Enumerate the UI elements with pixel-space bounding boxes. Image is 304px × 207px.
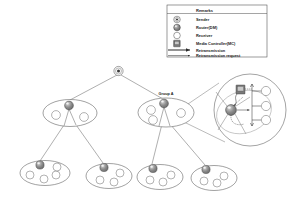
router-body [160, 99, 169, 108]
magnified-router-node[interactable] [226, 105, 237, 116]
receiver-node[interactable] [80, 113, 89, 122]
router-node[interactable] [100, 163, 108, 171]
media-controller-icon-screen [175, 41, 179, 44]
legend-label-receiver: Receiver [196, 33, 213, 38]
cluster-boundary [137, 165, 183, 190]
sender-node[interactable] [114, 66, 123, 75]
receiver-node[interactable] [26, 171, 34, 179]
legend-label-media-controller: Media Controller(MC) [196, 41, 236, 46]
router-highlight [101, 165, 103, 167]
cluster-group-a[interactable]: Group A [138, 92, 194, 127]
legend-label-sender: Sender [196, 17, 210, 22]
receiver-node[interactable] [52, 171, 60, 179]
cluster-group-left[interactable] [43, 100, 97, 127]
cluster-group-b1[interactable] [20, 161, 70, 186]
edge-sender-to-group-a [121, 75, 163, 99]
router-body [65, 101, 74, 110]
magnified-receiver-node[interactable] [261, 86, 270, 95]
receiver-node[interactable] [53, 163, 61, 171]
router-body [36, 161, 44, 169]
router-body [100, 163, 108, 171]
legend-label-retransmission-request: Retransmission request [196, 53, 241, 58]
router-node[interactable] [160, 99, 169, 108]
cluster-group-b4[interactable] [191, 165, 237, 190]
router-icon [174, 24, 181, 31]
receiver-node[interactable] [159, 178, 167, 186]
cluster-boundary [191, 166, 237, 191]
edge-sender-to-group-left [70, 75, 117, 100]
legend: Remarks Sender Router(DM) Receiver [167, 5, 267, 58]
receiver-node[interactable] [110, 178, 118, 186]
edge-group-left-to-b1 [40, 122, 66, 161]
cluster-group-b2[interactable] [86, 163, 132, 188]
legend-header-label: Remarks [196, 8, 214, 13]
receiver-icon [174, 32, 181, 39]
receiver-node[interactable] [52, 111, 61, 120]
sender-core-dot [117, 70, 120, 73]
figure-root: Group A [0, 0, 304, 207]
router-highlight [37, 162, 39, 164]
edge-group-a-to-b4 [170, 124, 205, 165]
router-highlight [228, 106, 231, 108]
receiver-node[interactable] [40, 175, 48, 183]
cluster-group-b3[interactable] [137, 164, 183, 189]
router-highlight [150, 166, 152, 168]
router-node[interactable] [149, 164, 157, 172]
router-highlight [161, 101, 164, 103]
router-node[interactable] [36, 161, 44, 169]
receiver-node[interactable] [147, 106, 156, 115]
receiver-node[interactable] [116, 169, 124, 177]
router-highlight [203, 167, 205, 169]
media-controller-node[interactable] [236, 85, 245, 94]
media-controller-screen [237, 86, 243, 91]
group-a-label: Group A [158, 92, 173, 96]
router-node[interactable] [202, 165, 210, 173]
router-icon-highlight [175, 25, 177, 27]
router-highlight [66, 103, 69, 105]
magnified-receiver-node[interactable] [261, 101, 270, 110]
edge-group-a-to-b3 [152, 124, 162, 164]
legend-label-retransmission: Retransmission [196, 48, 226, 53]
router-body [202, 165, 210, 173]
router-body [226, 105, 237, 116]
router-body [149, 164, 157, 172]
receiver-node[interactable] [213, 179, 221, 187]
router-node[interactable] [65, 101, 74, 110]
diagram-canvas: Group A [0, 0, 304, 207]
receiver-node[interactable] [149, 116, 158, 125]
zoom-cone-upper [188, 83, 219, 104]
cluster-boundary [86, 164, 132, 189]
magnified-receiver-node[interactable] [261, 115, 270, 124]
receiver-node[interactable] [177, 109, 186, 118]
receiver-node[interactable] [167, 171, 175, 179]
sender-icon-core [176, 19, 178, 21]
receiver-node[interactable] [146, 176, 154, 184]
magnifier-lens [214, 74, 286, 146]
magnifier-detail[interactable] [211, 74, 286, 146]
receiver-node[interactable] [220, 172, 228, 180]
receiver-node[interactable] [96, 176, 104, 184]
edge-group-left-to-b2 [74, 122, 103, 163]
receiver-node[interactable] [200, 177, 208, 185]
legend-label-router: Router(DM) [196, 25, 218, 30]
